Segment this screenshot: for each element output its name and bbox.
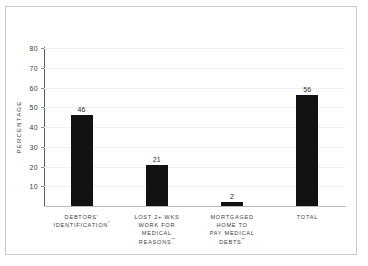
x-axis-category-label: TOTAL	[270, 213, 344, 221]
bar	[71, 115, 93, 206]
bar-value-label: 21	[153, 156, 161, 163]
y-tick-label: 60	[29, 84, 38, 91]
plot-area: 1020304050607080 46DEBTORS' IDENTIFICATI…	[44, 48, 345, 206]
x-axis-category-label: MORTGAGED HOME TO PAY MEDICAL DEBTS**	[195, 213, 269, 246]
bar	[296, 95, 318, 206]
y-tick-label: 50	[29, 104, 38, 111]
bar-group: 56TOTAL	[270, 48, 345, 206]
bar-value-label: 56	[303, 86, 311, 93]
bar-value-label: 46	[77, 106, 85, 113]
bar-group: 46DEBTORS' IDENTIFICATION*	[44, 48, 119, 206]
footnote-marker: *	[108, 220, 110, 225]
bar-group: 21LOST 2+ WKS WORK FOR MEDICAL REASONS**	[119, 48, 194, 206]
y-tick-label: 30	[29, 143, 38, 150]
y-tick-label: 80	[29, 45, 38, 52]
x-axis-baseline	[44, 206, 346, 207]
bar	[221, 202, 243, 206]
bar	[146, 165, 168, 206]
x-axis-category-label: DEBTORS' IDENTIFICATION*	[45, 213, 119, 229]
y-tick-label: 40	[29, 124, 38, 131]
bar-value-label: 2	[230, 193, 234, 200]
footnote-marker: **	[242, 237, 245, 242]
bar-group: 2MORTGAGED HOME TO PAY MEDICAL DEBTS**	[195, 48, 270, 206]
x-axis-category-label: LOST 2+ WKS WORK FOR MEDICAL REASONS**	[120, 213, 194, 246]
y-tick-label: 70	[29, 64, 38, 71]
footnote-marker: **	[171, 237, 174, 242]
y-axis-title: PERCENTAGE	[16, 101, 22, 154]
chart-figure: PERCENTAGE 1020304050607080 46DEBTORS' I…	[0, 0, 368, 266]
y-tick-label: 20	[29, 163, 38, 170]
y-tick-label: 10	[29, 183, 38, 190]
